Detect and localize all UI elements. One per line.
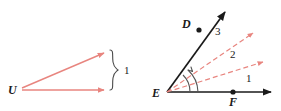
measure-brace: [110, 50, 118, 90]
angle-label-2: 2: [230, 48, 236, 60]
bracket-label-1: 1: [124, 64, 130, 76]
angle-figure-e: E D F 3 2 1: [145, 0, 281, 111]
point-label-f: F: [228, 95, 237, 109]
geometry-figure-page: 1 U: [0, 0, 281, 111]
angle-label-1: 1: [246, 72, 252, 84]
point-label-d: D: [181, 17, 191, 31]
angle-figure-u: 1 U: [0, 0, 145, 111]
ray-u-upper: [22, 53, 104, 88]
vertex-label-e: E: [151, 86, 160, 100]
ray-ed: [167, 12, 225, 92]
vertex-label-u: U: [8, 83, 18, 97]
point-d-dot: [196, 27, 201, 32]
angle-label-3: 3: [215, 25, 221, 37]
point-f-dot: [230, 89, 235, 94]
dashed-ray-upper: [167, 33, 253, 92]
